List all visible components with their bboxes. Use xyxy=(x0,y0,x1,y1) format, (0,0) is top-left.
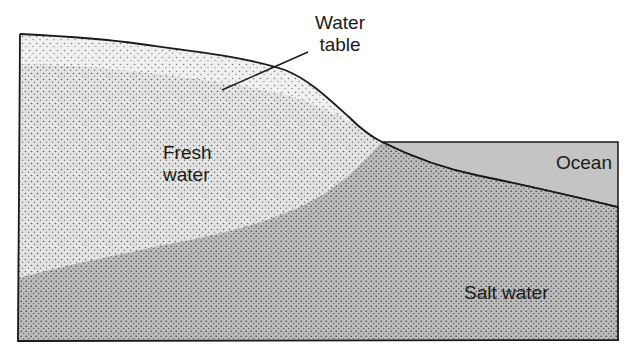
salt-water-label: Salt water xyxy=(464,282,548,304)
fresh-water-label: Fresh water xyxy=(163,142,212,186)
water-table-label: Water table xyxy=(310,12,370,56)
ocean-label: Ocean xyxy=(556,152,612,174)
